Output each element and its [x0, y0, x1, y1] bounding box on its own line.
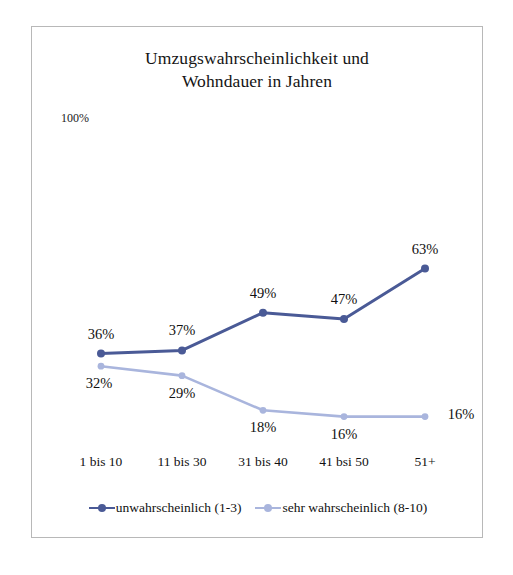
data-point-marker	[178, 346, 186, 354]
data-label: 47%	[331, 291, 358, 308]
data-point-marker	[179, 372, 186, 379]
chart-frame: Umzugswahrscheinlichkeit und Wohndauer i…	[31, 26, 483, 538]
data-label: 29%	[169, 385, 196, 402]
data-label: 16%	[331, 426, 358, 443]
data-point-marker	[259, 309, 267, 317]
category-label-0: 1 bis 10	[80, 454, 123, 470]
data-point-marker	[97, 350, 105, 358]
data-point-marker	[260, 407, 267, 414]
category-axis: 1 bis 1011 bis 3031 bis 4041 bsi 5051+	[32, 454, 484, 474]
data-label: 63%	[412, 241, 439, 258]
data-point-marker	[340, 315, 348, 323]
legend-label: unwahrscheinlich (1-3)	[116, 500, 242, 516]
data-point-marker	[98, 363, 105, 370]
category-label-4: 51+	[414, 454, 435, 470]
legend-label: sehr wahrscheinlich (8-10)	[282, 500, 427, 516]
data-label: 18%	[250, 419, 277, 436]
data-label: 37%	[169, 322, 196, 339]
category-label-3: 41 bsi 50	[319, 454, 369, 470]
data-label: 49%	[250, 285, 277, 302]
data-label: 16%	[448, 406, 475, 423]
legend-item-0[interactable]: unwahrscheinlich (1-3)	[89, 500, 242, 516]
data-point-marker	[422, 413, 429, 420]
data-label: 36%	[88, 326, 115, 343]
data-point-marker	[341, 413, 348, 420]
category-label-1: 11 bis 30	[157, 454, 206, 470]
data-label: 32%	[86, 375, 113, 392]
category-label-2: 31 bis 40	[238, 454, 288, 470]
legend-marker-icon	[255, 503, 281, 513]
legend-marker-icon	[89, 503, 115, 513]
data-point-marker	[421, 265, 429, 273]
chart-legend: unwahrscheinlich (1-3)sehr wahrscheinlic…	[32, 500, 484, 516]
legend-item-1[interactable]: sehr wahrscheinlich (8-10)	[255, 500, 427, 516]
